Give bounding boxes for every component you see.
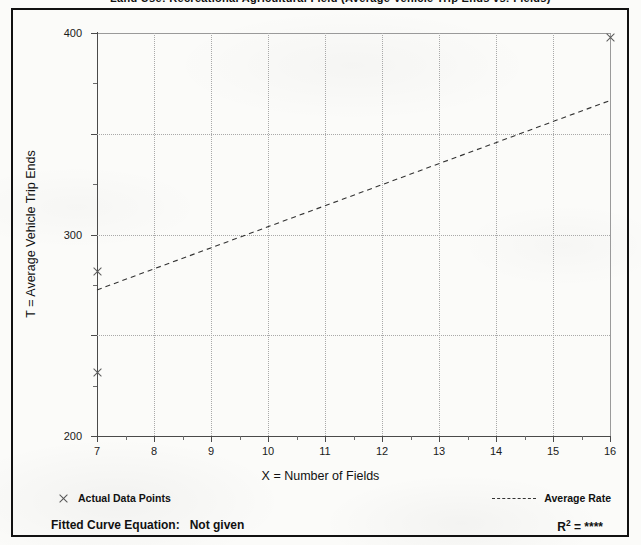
legend-entry-actual-data-points: Actual Data Points bbox=[58, 492, 171, 504]
y-tick-label: 200 bbox=[64, 430, 82, 442]
x-tick-minor bbox=[582, 436, 583, 440]
x-tick-label: 11 bbox=[319, 445, 330, 457]
x-tick bbox=[382, 436, 383, 442]
chart-figure: T = Average Vehicle Trip Ends X = Number… bbox=[0, 0, 641, 545]
plot-right-border bbox=[610, 33, 611, 437]
x-tick-minor bbox=[525, 436, 526, 440]
x-tick bbox=[154, 436, 155, 442]
legend-entry-average-rate: Average Rate bbox=[492, 492, 611, 504]
y-tick-label: 400 bbox=[64, 27, 82, 39]
dashed-line-icon bbox=[492, 498, 536, 499]
x-tick bbox=[211, 436, 212, 442]
x-tick-label: 14 bbox=[490, 445, 502, 457]
x-tick-minor bbox=[468, 436, 469, 440]
x-tick-minor bbox=[183, 436, 184, 440]
plot-area: 0100200300400 78910111213141516 bbox=[97, 33, 610, 436]
x-tick-label: 12 bbox=[376, 445, 388, 457]
r-squared-equals: = bbox=[574, 520, 581, 534]
y-axis-title: T = Average Vehicle Trip Ends bbox=[24, 150, 38, 317]
data-point-marker bbox=[92, 266, 103, 277]
data-point-marker bbox=[92, 367, 103, 378]
chart-footer: Fitted Curve Equation: Not given R2 = **… bbox=[0, 518, 641, 538]
x-tick bbox=[268, 436, 269, 442]
data-layer bbox=[97, 33, 610, 436]
x-tick-minor bbox=[411, 436, 412, 440]
scanned-page: Land Use: Recreational Agricultural Fiel… bbox=[0, 0, 641, 545]
x-tick-label: 10 bbox=[262, 445, 274, 457]
x-tick bbox=[97, 436, 98, 442]
r-squared-label: R bbox=[557, 520, 566, 534]
x-tick-label: 15 bbox=[547, 445, 559, 457]
average-rate-line-segment bbox=[97, 101, 610, 290]
chart-legend: Actual Data Points Average Rate bbox=[0, 492, 641, 510]
x-tick-label: 8 bbox=[151, 445, 157, 457]
x-axis-title: X = Number of Fields bbox=[0, 469, 641, 483]
x-tick bbox=[610, 436, 611, 442]
x-tick-minor bbox=[354, 436, 355, 440]
legend-label-average-rate: Average Rate bbox=[544, 492, 611, 504]
r-squared-annotation: R2 = **** bbox=[557, 518, 603, 534]
x-tick-label: 7 bbox=[94, 445, 100, 457]
x-tick bbox=[553, 436, 554, 442]
fitted-curve-equation-value: Not given bbox=[190, 518, 245, 532]
x-tick-minor bbox=[126, 436, 127, 440]
x-tick bbox=[496, 436, 497, 442]
fitted-curve-equation: Fitted Curve Equation: Not given bbox=[51, 518, 244, 532]
y-tick-label: 300 bbox=[64, 229, 82, 241]
fitted-curve-equation-label: Fitted Curve Equation: bbox=[51, 518, 180, 532]
x-tick bbox=[439, 436, 440, 442]
x-marker-icon bbox=[58, 493, 69, 504]
r-squared-value: **** bbox=[584, 520, 603, 534]
x-tick-label: 9 bbox=[208, 445, 214, 457]
x-tick-minor bbox=[297, 436, 298, 440]
data-point-marker bbox=[605, 32, 616, 43]
x-tick bbox=[325, 436, 326, 442]
legend-label-actual-data-points: Actual Data Points bbox=[78, 492, 171, 504]
x-tick-label: 16 bbox=[604, 445, 616, 457]
r-squared-exponent: 2 bbox=[566, 518, 571, 528]
x-tick-minor bbox=[240, 436, 241, 440]
x-tick-label: 13 bbox=[433, 445, 445, 457]
average-rate-line bbox=[97, 33, 610, 436]
